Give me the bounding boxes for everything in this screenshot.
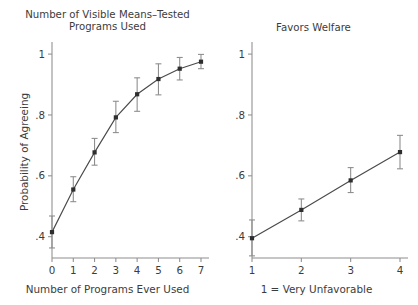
y-tick-label: 1 (38, 48, 45, 60)
x-tick-label: 0 (49, 264, 56, 276)
series-line (252, 152, 400, 238)
y-tick-label: .6 (235, 169, 245, 181)
data-point-marker (135, 92, 139, 96)
data-point-marker (114, 115, 118, 119)
x-tick-label: 4 (134, 264, 141, 276)
x-tick-label: 3 (347, 264, 354, 276)
panel-right-x-axis-title: 1 = Very Unfavorable (215, 283, 418, 295)
y-tick-label: .6 (35, 169, 45, 181)
chart-panel-right: Favors Welfare 1.8.6.41234 1 = Very Unfa… (215, 0, 418, 305)
data-point-marker (71, 187, 75, 191)
y-tick-label: .8 (35, 109, 45, 121)
x-tick-label: 4 (397, 264, 404, 276)
x-tick-label: 2 (298, 264, 305, 276)
data-point-marker (156, 77, 160, 81)
panel-right-plot: 1.8.6.41234 (215, 0, 418, 305)
data-point-marker (349, 178, 353, 182)
x-tick-label: 7 (198, 264, 205, 276)
y-tick-label: 1 (238, 48, 245, 60)
figure-container: Number of Visible Means–Tested Programs … (0, 0, 418, 305)
data-point-marker (92, 150, 96, 154)
series-line (52, 62, 201, 232)
y-tick-label: .4 (235, 230, 245, 242)
data-point-marker (398, 150, 402, 154)
data-point-marker (199, 60, 203, 64)
panel-left-plot: 1.8.6.401234567 (0, 0, 215, 305)
data-point-marker (178, 67, 182, 71)
x-tick-label: 1 (70, 264, 77, 276)
x-tick-label: 3 (113, 264, 120, 276)
panel-left-y-axis-title: Probability of Agreeing (18, 72, 30, 232)
x-tick-label: 2 (91, 264, 98, 276)
x-tick-label: 5 (155, 264, 162, 276)
data-point-marker (250, 236, 254, 240)
x-tick-label: 6 (176, 264, 183, 276)
x-tick-label: 1 (249, 264, 256, 276)
data-point-marker (50, 230, 54, 234)
panel-left-x-axis-title: Number of Programs Ever Used (0, 283, 215, 295)
chart-panel-left: Number of Visible Means–Tested Programs … (0, 0, 215, 305)
y-tick-label: .4 (35, 230, 45, 242)
y-tick-label: .8 (235, 109, 245, 121)
data-point-marker (299, 208, 303, 212)
